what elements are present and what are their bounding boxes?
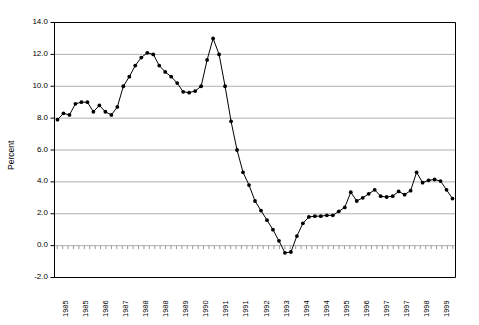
data-point-marker [433, 178, 437, 182]
data-point-marker [379, 194, 383, 198]
data-point-marker [80, 100, 84, 104]
x-axis-tick-label: 1994 [322, 300, 331, 317]
data-point-marker [343, 205, 347, 209]
data-point-marker [391, 194, 395, 198]
data-point-marker [229, 119, 233, 123]
data-point-marker [187, 91, 191, 95]
data-point-marker [86, 100, 90, 104]
data-point-marker [175, 81, 179, 85]
line-chart-plot [0, 0, 479, 325]
x-axis-tick-label: 1994 [302, 300, 311, 317]
data-point-marker [241, 170, 245, 174]
data-point-marker [295, 234, 299, 238]
x-axis-tick-label: 1988 [141, 300, 150, 317]
y-axis-tick-label: 14.0 [10, 17, 48, 26]
data-point-marker [127, 75, 131, 79]
data-point-marker [139, 56, 143, 60]
x-axis-tick-label: 1991 [221, 300, 230, 317]
x-axis-tick-label: 1987 [121, 300, 130, 317]
x-axis-tick-label: 1988 [161, 300, 170, 317]
x-axis-tick-label: 1985 [61, 300, 70, 317]
x-axis-tick-label: 1992 [262, 300, 271, 317]
data-point-marker [181, 90, 185, 94]
data-point-marker [211, 37, 215, 41]
x-axis-tick-label: 1985 [81, 300, 90, 317]
data-point-marker [92, 110, 96, 114]
chart-container: Percent -2.00.02.04.06.08.010.012.014.01… [0, 0, 479, 325]
data-point-marker [439, 179, 443, 183]
data-point-marker [301, 221, 305, 225]
y-axis-tick-label: 12.0 [10, 49, 48, 58]
data-point-marker [68, 113, 72, 117]
data-point-marker [397, 190, 401, 194]
data-point-marker [283, 251, 287, 255]
data-point-marker [151, 52, 155, 56]
data-point-marker [421, 181, 425, 185]
data-point-marker [235, 148, 239, 152]
data-point-marker [223, 84, 227, 88]
y-axis-tick-label: 6.0 [10, 145, 48, 154]
data-point-marker [313, 214, 317, 218]
data-point-marker [97, 103, 101, 107]
data-point-marker [415, 170, 419, 174]
x-axis-tick-label: 1996 [362, 300, 371, 317]
data-point-marker [373, 188, 377, 192]
data-point-marker [259, 209, 263, 213]
data-point-marker [56, 118, 60, 122]
x-axis-tick-label: 1991 [241, 300, 250, 317]
x-axis-tick-label: 1986 [101, 300, 110, 317]
data-point-marker [349, 190, 353, 194]
data-point-marker [367, 192, 371, 196]
data-point-marker [277, 239, 281, 243]
data-point-marker [271, 228, 275, 232]
data-point-marker [247, 183, 251, 187]
data-point-marker [103, 110, 107, 114]
x-axis-tick-label: 1997 [382, 300, 391, 317]
data-point-marker [199, 84, 203, 88]
x-axis-tick-label: 1995 [342, 300, 351, 317]
data-point-marker [427, 178, 431, 182]
data-point-marker [403, 193, 407, 197]
data-point-marker [265, 218, 269, 222]
data-point-marker [74, 102, 78, 106]
data-point-marker [115, 105, 119, 109]
x-axis-tick-label: 1999 [442, 300, 451, 317]
y-axis-tick-label: 2.0 [10, 208, 48, 217]
x-axis-tick-label: 1993 [282, 300, 291, 317]
x-axis-tick-label: 1989 [181, 300, 190, 317]
data-point-marker [289, 250, 293, 254]
x-axis-tick-label: 1997 [402, 300, 411, 317]
data-point-marker [385, 195, 389, 199]
x-axis-tick-label: 1998 [422, 300, 431, 317]
y-axis-tick-label: 8.0 [10, 113, 48, 122]
y-axis-tick-label: 0.0 [10, 240, 48, 249]
data-point-marker [62, 111, 66, 115]
data-point-marker [451, 197, 455, 201]
data-point-marker [169, 75, 173, 79]
data-point-marker [445, 188, 449, 192]
data-point-marker [157, 64, 161, 68]
data-point-marker [121, 84, 125, 88]
y-axis-tick-label: 4.0 [10, 176, 48, 185]
data-point-marker [355, 199, 359, 203]
data-point-marker [163, 70, 167, 74]
y-axis-tick-label: 10.0 [10, 81, 48, 90]
data-point-marker [109, 113, 113, 117]
data-point-marker [361, 196, 365, 200]
data-point-marker [253, 199, 257, 203]
data-point-marker [325, 213, 329, 217]
data-point-marker [409, 189, 413, 193]
data-point-marker [319, 214, 323, 218]
y-axis-tick-label: -2.0 [10, 272, 48, 281]
data-point-marker [133, 64, 137, 68]
data-point-marker [145, 51, 149, 55]
data-point-marker [217, 52, 221, 56]
x-axis-tick-label: 1990 [201, 300, 210, 317]
data-point-marker [193, 89, 197, 93]
data-point-marker [205, 58, 209, 62]
data-point-marker [307, 215, 311, 219]
data-point-marker [331, 213, 335, 217]
data-point-marker [337, 209, 341, 213]
